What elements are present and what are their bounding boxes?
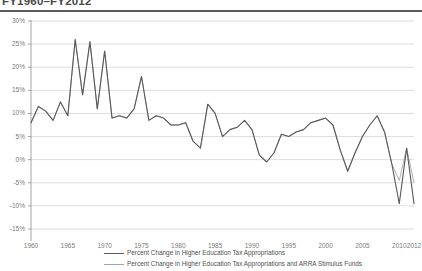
chart-series-line	[31, 39, 414, 182]
y-axis-label: -15%	[3, 225, 25, 232]
legend-label: Percent Change in Higher Education Tax A…	[127, 249, 285, 257]
line-chart-svg	[0, 12, 422, 244]
chart-series-line	[31, 39, 414, 203]
chart-page: FY1960–FY2012 30%25%20%15%10%5%0%-5%-10%…	[0, 0, 422, 271]
y-axis-label: 10%	[3, 109, 25, 116]
y-axis-label: 15%	[3, 86, 25, 93]
legend-swatch	[104, 264, 124, 265]
legend-swatch	[104, 253, 124, 254]
y-axis-label: 20%	[3, 63, 25, 70]
legend-item: Percent Change in Higher Education Tax A…	[104, 259, 414, 269]
y-axis-label: 5%	[3, 133, 25, 140]
legend-item: Percent Change in Higher Education Tax A…	[104, 248, 414, 258]
legend-label: Percent Change in Higher Education Tax A…	[127, 260, 362, 268]
y-axis-label: 25%	[3, 40, 25, 47]
y-axis-label: 30%	[3, 17, 25, 24]
chart-plot-area: 30%25%20%15%10%5%0%-5%-10%-15%1960196519…	[0, 12, 422, 244]
x-axis-label: 1965	[56, 242, 80, 249]
y-axis-label: -5%	[3, 179, 25, 186]
x-axis-label: 1960	[19, 242, 43, 249]
page-title: FY1960–FY2012	[2, 0, 92, 7]
y-axis-label: 0%	[3, 156, 25, 163]
y-axis-label: -10%	[3, 202, 25, 209]
chart-legend: Percent Change in Higher Education Tax A…	[104, 248, 414, 270]
